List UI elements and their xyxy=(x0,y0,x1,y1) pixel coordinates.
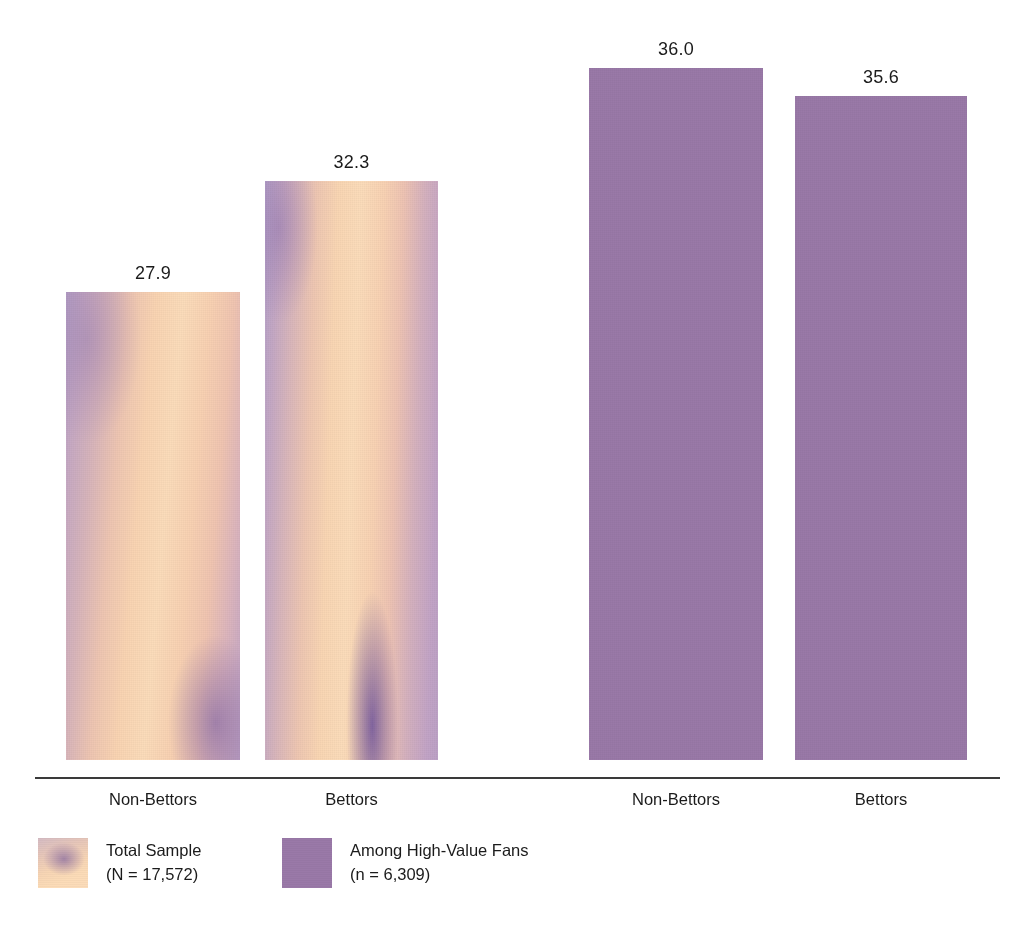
bar-value-label: 36.0 xyxy=(589,39,763,60)
legend-item-title: Total Sample xyxy=(106,841,201,859)
bar-group-2: 32.3 xyxy=(265,0,438,779)
bar-value-label: 27.9 xyxy=(66,263,240,284)
bar-group-1: 27.9 xyxy=(66,0,240,779)
legend-item-label: Among High-Value Fans (n = 6,309) xyxy=(350,838,529,887)
legend-swatch-icon xyxy=(282,838,332,888)
bar-total-sample-non-bettors[interactable] xyxy=(66,292,240,760)
x-tick-label-3: Non-Bettors xyxy=(589,790,763,809)
legend-item-title: Among High-Value Fans xyxy=(350,841,529,859)
plot-area: 27.9 32.3 36.0 35.6 xyxy=(0,0,1034,779)
legend-item-sublabel: (n = 6,309) xyxy=(350,863,529,887)
legend-item-high-value-fans[interactable]: Among High-Value Fans (n = 6,309) xyxy=(282,838,529,888)
x-tick-label-4: Bettors xyxy=(795,790,967,809)
bar-total-sample-bettors[interactable] xyxy=(265,181,438,760)
legend-item-sublabel: (N = 17,572) xyxy=(106,863,201,887)
chart-legend: Total Sample (N = 17,572) Among High-Val… xyxy=(0,838,1034,908)
bar-high-value-fans-bettors[interactable] xyxy=(795,96,967,760)
bar-chart: 27.9 32.3 36.0 35.6 Non-Bettors Bettors … xyxy=(0,0,1034,939)
legend-item-label: Total Sample (N = 17,572) xyxy=(106,838,201,887)
bar-high-value-fans-non-bettors[interactable] xyxy=(589,68,763,760)
bar-group-3: 36.0 xyxy=(589,0,763,779)
axis-baseline xyxy=(35,777,1000,779)
x-axis-tick-labels: Non-Bettors Bettors Non-Bettors Bettors xyxy=(0,790,1034,818)
bar-value-label: 35.6 xyxy=(795,67,967,88)
x-tick-label-2: Bettors xyxy=(265,790,438,809)
bar-value-label: 32.3 xyxy=(265,152,438,173)
bar-group-4: 35.6 xyxy=(795,0,967,779)
x-tick-label-1: Non-Bettors xyxy=(66,790,240,809)
legend-swatch-icon xyxy=(38,838,88,888)
legend-item-total-sample[interactable]: Total Sample (N = 17,572) xyxy=(38,838,201,888)
